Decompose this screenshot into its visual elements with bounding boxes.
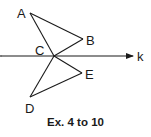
line-label-k: k bbox=[137, 49, 144, 64]
segment-ed bbox=[30, 73, 82, 97]
geometry-figure: A B C E D k Ex. 4 to 10 bbox=[0, 0, 151, 137]
point-label-b: B bbox=[86, 33, 95, 48]
point-label-e: E bbox=[85, 67, 94, 82]
point-label-a: A bbox=[17, 6, 26, 21]
segment-cd bbox=[30, 56, 54, 97]
segment-ab bbox=[30, 13, 83, 39]
segment-ce bbox=[54, 56, 82, 73]
point-label-d: D bbox=[25, 101, 34, 116]
segment-bc bbox=[54, 39, 83, 56]
figure-caption: Ex. 4 to 10 bbox=[0, 116, 151, 128]
point-label-c: C bbox=[35, 43, 44, 58]
